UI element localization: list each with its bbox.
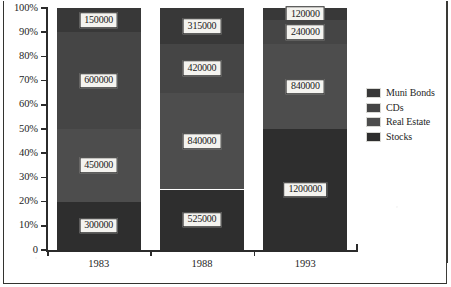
legend-color-swatch [366,132,381,142]
y-axis-tick-label: 60% [0,99,38,110]
bar-segment-stocks[interactable]: 300000 [57,202,141,250]
legend-item-real-estate[interactable]: Real Estate [366,115,448,130]
bar-1983[interactable]: 150000600000450000300000 [57,8,141,250]
figure-border-right [446,1,448,263]
bar-segment-muni-bonds[interactable]: 150000 [57,8,141,32]
legend-color-swatch [366,103,381,113]
segment-value-label: 315000 [183,18,222,34]
bar-segment-cds[interactable]: 420000 [160,44,244,92]
x-axis-tick [254,250,256,256]
y-axis-tick-label: 20% [0,196,38,207]
segment-value-label: 840000 [183,133,222,149]
bar-segment-stocks[interactable]: 525000 [160,190,244,251]
legend-label: CDs [386,103,403,113]
chart-legend: Muni BondsCDsReal EstateStocks [366,86,448,144]
y-axis-tick-label: 40% [0,148,38,159]
segment-value-label: 240000 [286,24,325,40]
segment-value-label: 600000 [79,73,118,89]
plot-area: 1500006000004500003000003150004200008400… [47,8,357,250]
y-axis-tick-label: 80% [0,51,38,62]
y-axis-tick-label: 0 [0,245,38,256]
x-axis-label-1993: 1993 [275,258,335,269]
y-axis-tick-label: 10% [0,220,38,231]
legend-label: Real Estate [386,117,430,127]
bar-1993[interactable]: 1200002400008400001200000 [263,8,347,250]
legend-item-muni-bonds[interactable]: Muni Bonds [366,86,448,101]
x-axis-label-1983: 1983 [69,258,129,269]
bar-1988[interactable]: 315000420000840000525000 [160,8,244,250]
bar-segment-cds[interactable]: 240000 [263,20,347,44]
segment-value-label: 1200000 [284,182,328,198]
y-axis-tick-label: 90% [0,27,38,38]
segment-value-label: 450000 [79,158,118,174]
bar-segment-real-estate[interactable]: 840000 [160,93,244,190]
segment-value-label: 150000 [79,12,118,28]
stacked-bar-chart: 100%90%80%70%60%50%40%30%20%10%0 1983198… [0,0,451,287]
bar-segment-real-estate[interactable]: 840000 [263,44,347,129]
legend-color-swatch [366,88,381,98]
y-axis-tick-label: 50% [0,124,38,135]
segment-value-label: 840000 [286,79,325,95]
legend-item-stocks[interactable]: Stocks [366,130,448,145]
x-axis-line [46,250,358,252]
x-axis-tick [150,250,152,256]
x-axis-tick [47,250,49,256]
legend-label: Muni Bonds [386,88,435,98]
y-axis-tick-label: 100% [0,3,38,14]
y-axis-tick-label: 70% [0,75,38,86]
x-axis-label-1988: 1988 [172,258,232,269]
y-axis-tick-label: 30% [0,172,38,183]
segment-value-label: 525000 [183,212,222,228]
bar-segment-muni-bonds[interactable]: 120000 [263,8,347,20]
segment-value-label: 420000 [183,61,222,77]
segment-value-label: 300000 [79,218,118,234]
bar-segment-muni-bonds[interactable]: 315000 [160,8,244,44]
bar-segment-stocks[interactable]: 1200000 [263,129,347,250]
legend-item-cds[interactable]: CDs [366,101,448,116]
legend-label: Stocks [386,132,412,142]
bar-segment-cds[interactable]: 600000 [57,32,141,129]
bar-segment-real-estate[interactable]: 450000 [57,129,141,202]
legend-color-swatch [366,117,381,127]
